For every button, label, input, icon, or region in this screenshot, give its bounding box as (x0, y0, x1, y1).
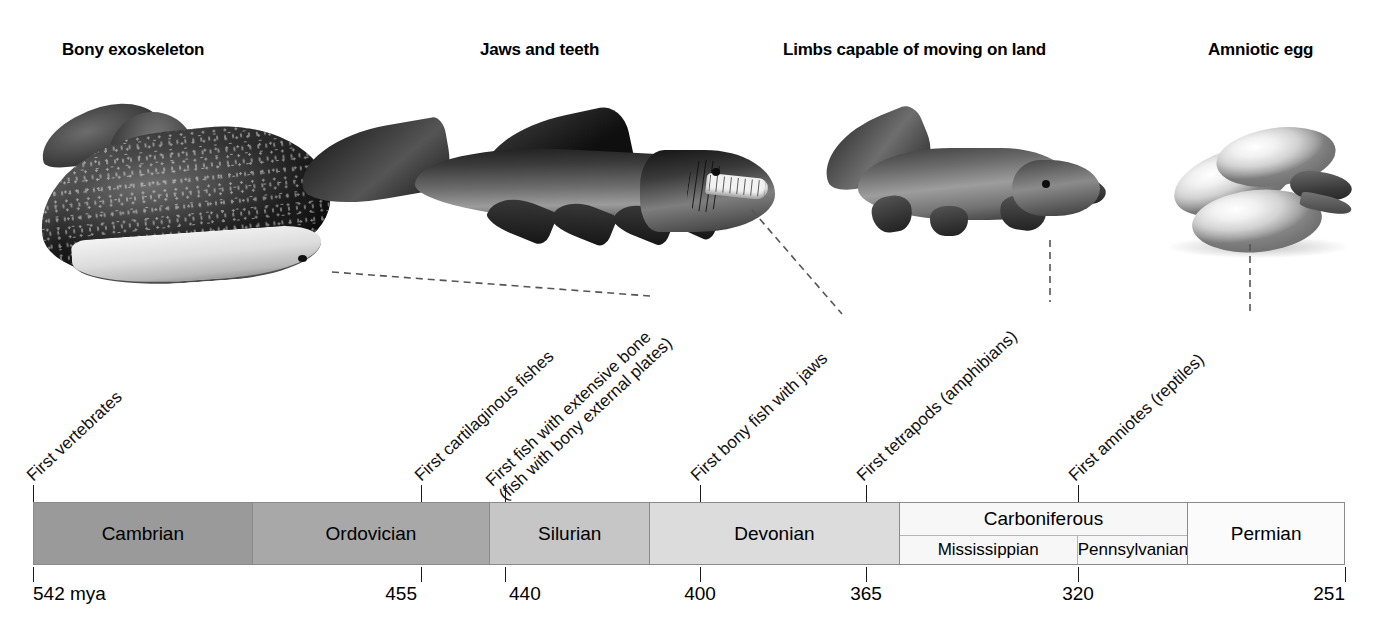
tick-upper-455 (421, 485, 422, 502)
tick-upper-365 (866, 485, 867, 502)
tick-upper-542 (33, 485, 34, 502)
axis-label-440: 440 (505, 583, 541, 605)
period-segment-carboniferous[interactable]: Carboniferous Mississippian Pennsylvania… (900, 503, 1189, 564)
innovation-heading-bony-exoskeleton: Bony exoskeleton (62, 40, 204, 60)
evolution-timeline-figure: Bony exoskeleton Jaws and teeth Limbs ca… (0, 0, 1391, 630)
event-label-text: First bony fish with jaws (687, 349, 831, 485)
tick-lower-542 (33, 567, 34, 582)
axis-label-365: 365 (850, 583, 882, 605)
tick-upper-400 (700, 485, 701, 502)
leader-line-jaws-and-teeth (752, 210, 842, 314)
event-label-text: First amniotes (reptiles) (1065, 350, 1208, 485)
shark-teeth-icon (708, 175, 765, 197)
subperiod-mississippian[interactable]: Mississippian (900, 536, 1078, 564)
event-label-text: First fish with extensive bone (482, 327, 655, 490)
shark-eye-icon (712, 168, 720, 176)
ostracoderm-eye-icon (298, 255, 307, 262)
period-segment-silurian[interactable]: Silurian (490, 503, 650, 564)
tick-upper-440 (505, 485, 506, 502)
period-segment-cambrian[interactable]: Cambrian (34, 503, 253, 564)
period-name: Silurian (490, 503, 649, 564)
event-label-first-vertebrates: First vertebrates (23, 387, 126, 485)
leader-line-bony-exoskeleton (332, 272, 650, 296)
tick-lower-455 (421, 567, 422, 582)
event-label-text: First tetrapods (amphibians) (853, 327, 1021, 485)
tetrapod-eye-icon (1042, 180, 1050, 188)
subperiod-pennsylvanian[interactable]: Pennsylvanian (1078, 536, 1189, 564)
innovation-heading-jaws-and-teeth: Jaws and teeth (480, 40, 599, 60)
innovation-heading-amniotic-egg: Amniotic egg (1208, 40, 1313, 60)
axis-label-320: 320 (1062, 583, 1094, 605)
period-segment-permian[interactable]: Permian (1188, 503, 1344, 564)
geologic-period-bar: Cambrian Ordovician Silurian Devonian Ca… (33, 502, 1345, 565)
event-label-first-tetrapods: First tetrapods (amphibians) (853, 327, 1021, 485)
axis-label-455: 455 (385, 583, 421, 605)
period-name: Ordovician (253, 503, 490, 564)
period-segment-devonian[interactable]: Devonian (650, 503, 900, 564)
axis-label-251: 251 (1313, 583, 1345, 605)
period-name: Permian (1188, 503, 1344, 564)
period-segment-ordovician[interactable]: Ordovician (253, 503, 491, 564)
tick-lower-251 (1345, 567, 1346, 582)
tick-lower-320 (1078, 567, 1079, 582)
axis-label-542: 542 mya (33, 583, 106, 605)
tetrapod-limb-icon (870, 193, 915, 234)
tetrapod-head-icon (1012, 160, 1100, 216)
period-name: Cambrian (34, 503, 252, 564)
event-label-text-secondary: (fish with bony external plates) (495, 334, 676, 505)
tick-lower-365 (866, 567, 867, 582)
period-name: Devonian (650, 503, 899, 564)
axis-label-400: 400 (684, 583, 716, 605)
tick-upper-320 (1078, 485, 1079, 502)
carboniferous-subperiods: Mississippian Pennsylvanian (900, 535, 1188, 564)
tick-lower-400 (700, 567, 701, 582)
event-label-first-amniotes: First amniotes (reptiles) (1065, 350, 1208, 485)
period-name: Carboniferous (900, 503, 1188, 535)
innovation-heading-limbs: Limbs capable of moving on land (783, 40, 1046, 60)
tick-lower-440 (505, 567, 506, 582)
event-label-text: First vertebrates (23, 387, 126, 485)
event-label-first-bony-fish-with-jaws: First bony fish with jaws (687, 349, 831, 485)
event-label-first-fish-with-extensive-bone: First fish with extensive bone (fish wit… (482, 320, 676, 504)
tetrapod-limb-icon (930, 206, 968, 236)
